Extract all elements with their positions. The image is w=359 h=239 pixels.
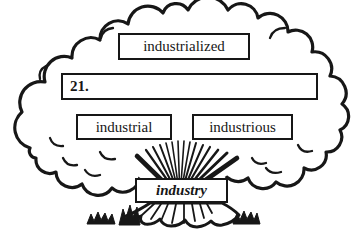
word-box-industrial: industrial <box>76 114 172 140</box>
word-label-industrialized: industrialized <box>143 38 225 55</box>
word-label-industrial: industrial <box>96 119 153 136</box>
word-box-industrious: industrious <box>192 114 293 140</box>
word-box-industrialized: industrialized <box>118 33 250 60</box>
word-box-industry: industry <box>135 178 228 203</box>
answer-blank-box-21: 21. <box>61 73 318 100</box>
word-label-industrious: industrious <box>209 119 276 136</box>
word-family-tree-illustration: industrialized 21. industrial industriou… <box>0 0 359 239</box>
grass-tuft-left <box>87 212 115 224</box>
blank-number-label: 21. <box>70 78 89 95</box>
grass-tuft-right <box>233 211 260 224</box>
grass-tuft-center-left <box>119 205 140 225</box>
word-label-industry: industry <box>156 182 207 199</box>
